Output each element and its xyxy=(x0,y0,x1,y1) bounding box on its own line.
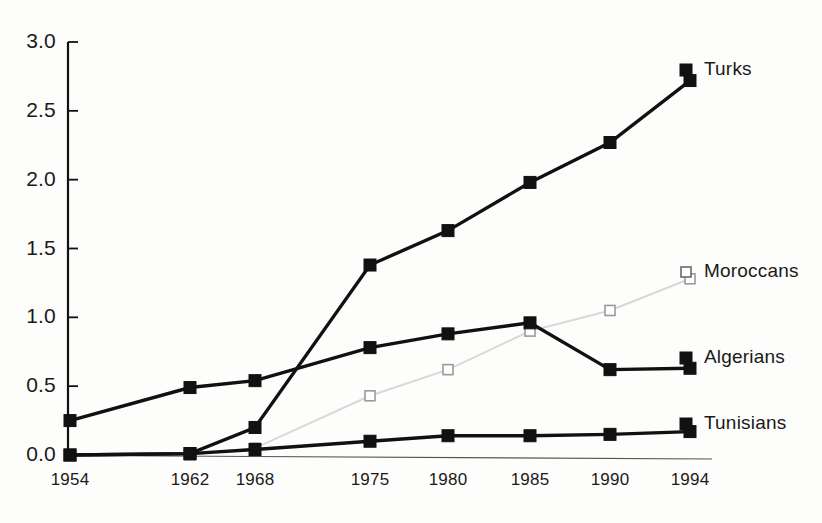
data-point-marker xyxy=(364,435,376,447)
series-label-algerians: Algerians xyxy=(704,346,785,368)
data-point-marker xyxy=(365,391,375,401)
data-point-marker xyxy=(249,421,261,433)
x-axis-tick-label: 1954 xyxy=(35,470,105,490)
data-point-marker xyxy=(64,415,76,427)
y-axis-tick-label: 3.0 xyxy=(0,29,56,53)
data-point-marker xyxy=(524,317,536,329)
data-point-marker xyxy=(184,382,196,394)
y-axis-tick-label: 0.5 xyxy=(0,373,56,397)
axes-group xyxy=(68,42,712,459)
data-point-marker xyxy=(604,428,616,440)
data-point-marker xyxy=(249,375,261,387)
y-axis-tick-label: 2.0 xyxy=(0,167,56,191)
series-line-turks xyxy=(70,81,690,455)
data-point-marker xyxy=(524,176,536,188)
series-turks xyxy=(64,64,696,461)
data-point-marker xyxy=(524,430,536,442)
series-algerians xyxy=(64,317,696,427)
legend-marker-moroccans xyxy=(681,267,691,277)
x-axis-tick-label: 1980 xyxy=(413,470,483,490)
legend-marker-algerians xyxy=(680,352,692,364)
series-line-algerians xyxy=(70,323,690,421)
data-point-marker xyxy=(443,365,453,375)
series-label-tunisians: Tunisians xyxy=(704,412,786,434)
x-axis-tick-label: 1994 xyxy=(655,470,725,490)
x-axis-tick-label: 1968 xyxy=(220,470,290,490)
legend-marker-tunisians xyxy=(680,418,692,430)
data-point-marker xyxy=(64,449,76,461)
data-point-marker xyxy=(442,225,454,237)
y-axis-tick-label: 2.5 xyxy=(0,98,56,122)
data-point-marker xyxy=(184,448,196,460)
data-point-marker xyxy=(442,328,454,340)
chart-page: 0.00.51.01.52.02.53.0 195419621968197519… xyxy=(0,0,822,523)
series-line-tunisians xyxy=(70,432,690,455)
data-point-marker xyxy=(364,342,376,354)
data-point-marker xyxy=(604,364,616,376)
data-point-marker xyxy=(364,259,376,271)
x-axis-tick-label: 1975 xyxy=(335,470,405,490)
x-axis-line xyxy=(68,456,712,460)
x-axis-tick-label: 1985 xyxy=(495,470,565,490)
data-point-marker xyxy=(249,443,261,455)
data-point-marker xyxy=(604,136,616,148)
data-point-marker xyxy=(605,305,615,315)
y-axis-tick-label: 0.0 xyxy=(0,442,56,466)
y-axis-tick-label: 1.5 xyxy=(0,236,56,260)
legend-marker-turks xyxy=(680,64,692,76)
series-group xyxy=(64,64,696,461)
data-point-marker xyxy=(442,430,454,442)
x-axis-tick-label: 1962 xyxy=(155,470,225,490)
line-chart-canvas xyxy=(0,0,822,523)
series-label-turks: Turks xyxy=(704,58,752,80)
x-axis-tick-label: 1990 xyxy=(575,470,645,490)
y-axis-tick-label: 1.0 xyxy=(0,304,56,328)
series-label-moroccans: Moroccans xyxy=(704,260,799,282)
